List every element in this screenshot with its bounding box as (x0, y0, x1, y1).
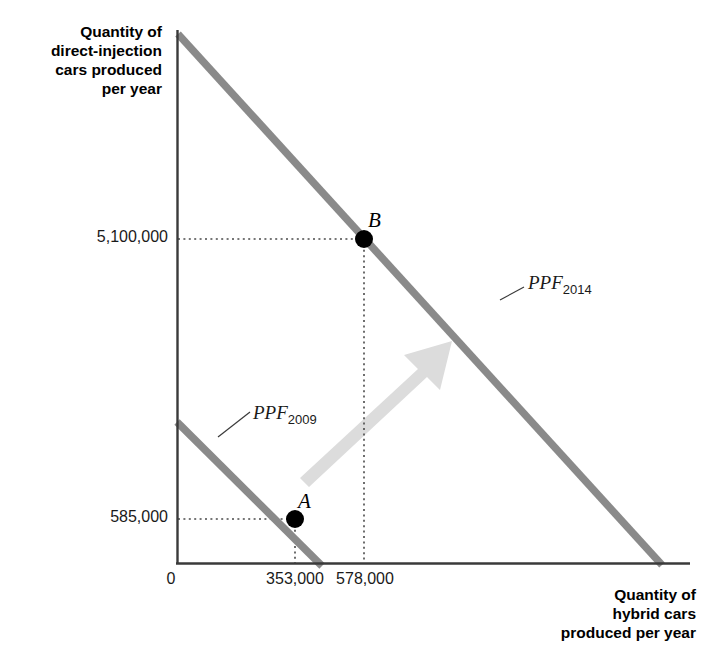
ppf-2009-label-base: PPF (253, 402, 288, 423)
ppf-2014-leader (500, 287, 524, 300)
x-tick-label-origin: 0 (158, 570, 184, 588)
x-tick-label-578000: 578,000 (310, 570, 420, 588)
y-tick-label-5100000: 5,100,000 (30, 228, 168, 246)
ppf-2014-label-year: 2014 (563, 282, 592, 297)
y-tick-label-585000: 585,000 (30, 508, 168, 526)
ppf-2014-label: PPF2014 (528, 272, 592, 297)
point-label-b: B (368, 208, 381, 233)
y-axis-title: Quantity of direct-injection cars produc… (12, 22, 162, 98)
ppf-2014-label-base: PPF (528, 272, 563, 293)
point-label-a: A (298, 489, 311, 514)
ppf-figure: Quantity of direct-injection cars produc… (0, 0, 702, 658)
chart-canvas (0, 0, 702, 658)
ppf-2009-label: PPF2009 (253, 402, 317, 427)
ppf-2009-leader (218, 412, 250, 437)
ppf-2009-label-year: 2009 (288, 412, 317, 427)
ppf-2014-curve (178, 34, 662, 565)
x-axis-title: Quantity of hybrid cars produced per yea… (470, 585, 696, 642)
economic-growth-arrow (300, 341, 452, 487)
